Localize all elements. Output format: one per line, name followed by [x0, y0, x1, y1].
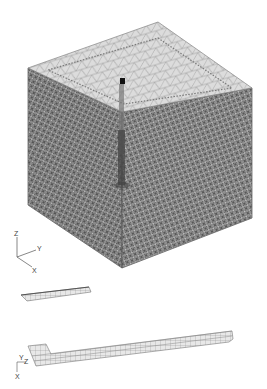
- axis-label-z2: Z: [24, 358, 29, 365]
- cube-right-face: [122, 88, 252, 268]
- cube-lattice-mesh: [28, 22, 252, 268]
- axis-triad-detail: Y Z X: [15, 354, 29, 380]
- axis-label-y: Y: [37, 245, 42, 252]
- axis-label-x2: X: [15, 373, 20, 380]
- short-beam-mesh: [21, 287, 91, 301]
- long-beam-mesh: [28, 331, 233, 366]
- axis-triad-main: Z Y X: [14, 230, 42, 274]
- axis-label-x: X: [32, 267, 37, 274]
- figure-canvas: Z Y X Y Z X: [0, 0, 267, 389]
- axis-label-z: Z: [14, 230, 19, 237]
- pile-head: [120, 78, 125, 84]
